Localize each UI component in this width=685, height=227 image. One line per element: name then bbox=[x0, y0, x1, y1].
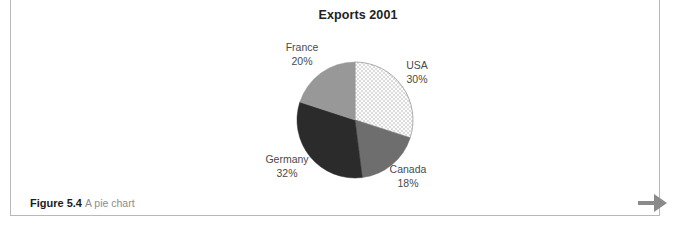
pie-label-germany-value: 32% bbox=[252, 166, 322, 180]
pie-label-france: France 20% bbox=[272, 40, 332, 68]
figure-caption-text: A pie chart bbox=[85, 197, 135, 209]
pie-chart-figure: Exports 2001 France 20% USA 30% bbox=[0, 0, 685, 190]
next-page-button[interactable] bbox=[636, 190, 670, 216]
arrow-right-icon bbox=[636, 190, 670, 216]
pie-label-canada-value: 18% bbox=[378, 176, 438, 190]
pie-label-usa-name: USA bbox=[406, 59, 428, 71]
pie-label-canada-name: Canada bbox=[390, 163, 427, 175]
chart-title: Exports 2001 bbox=[258, 8, 458, 22]
pie-label-france-name: France bbox=[286, 41, 319, 53]
pie-label-france-value: 20% bbox=[272, 54, 332, 68]
pie-label-canada: Canada 18% bbox=[378, 162, 438, 190]
figure-caption-label: Figure 5.4 bbox=[30, 197, 82, 209]
pie-label-germany: Germany 32% bbox=[252, 152, 322, 180]
figure-caption: Figure 5.4A pie chart bbox=[30, 196, 135, 210]
pie-label-usa-value: 30% bbox=[392, 72, 442, 86]
pie-label-usa: USA 30% bbox=[392, 58, 442, 86]
pie-label-germany-name: Germany bbox=[265, 153, 308, 165]
